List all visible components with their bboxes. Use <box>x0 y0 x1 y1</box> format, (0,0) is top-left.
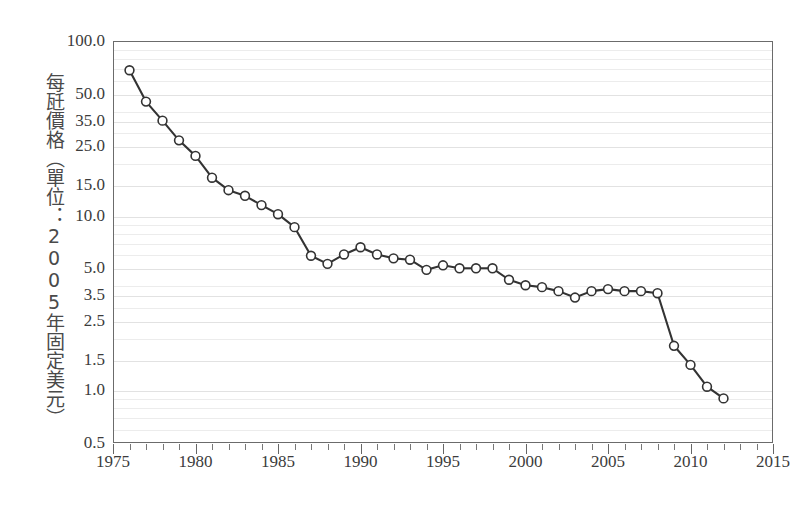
y-tick-label: 35.0 <box>33 111 105 131</box>
x-tick-minor <box>641 444 642 450</box>
x-tick-minor <box>575 444 576 450</box>
x-tick-minor <box>427 444 428 450</box>
gridline <box>114 322 772 323</box>
gridline <box>114 269 772 270</box>
x-tick-minor <box>295 444 296 450</box>
y-tick-label: 50.0 <box>33 84 105 104</box>
x-tick-minor <box>146 444 147 450</box>
gridline <box>114 361 772 362</box>
gridline <box>114 399 772 400</box>
x-tick-label: 1995 <box>413 452 473 472</box>
x-tick-minor <box>509 444 510 450</box>
gridline <box>114 50 772 51</box>
x-tick-minor <box>757 444 758 450</box>
x-tick-minor <box>707 444 708 450</box>
gridline <box>114 217 772 218</box>
gridline <box>114 255 772 256</box>
x-tick-minor <box>262 444 263 450</box>
gridline <box>114 391 772 392</box>
gridline <box>114 147 772 148</box>
x-tick-label: 1985 <box>248 452 308 472</box>
y-tick-label: 1.5 <box>33 350 105 370</box>
x-tick-minor <box>311 444 312 450</box>
x-tick-minor <box>212 444 213 450</box>
y-tick-label: 3.5 <box>33 285 105 305</box>
y-tick-label: 2.5 <box>33 311 105 331</box>
gridline <box>114 186 772 187</box>
gridline <box>114 81 772 82</box>
gridline <box>114 418 772 419</box>
gridline <box>114 164 772 165</box>
gridline <box>114 122 772 123</box>
gridline <box>114 296 772 297</box>
gridlines <box>114 42 772 442</box>
x-tick-minor <box>592 444 593 450</box>
y-tick-label: 100.0 <box>33 31 105 51</box>
x-tick-minor <box>724 444 725 450</box>
y-tick-label: 5.0 <box>33 258 105 278</box>
chart-figure: 每瓩價格（單位：2005年固定美元） 100.050.035.025.015.0… <box>0 0 810 512</box>
x-tick-label: 1990 <box>331 452 391 472</box>
gridline <box>114 244 772 245</box>
x-tick-minor <box>476 444 477 450</box>
gridline <box>114 286 772 287</box>
x-tick-minor <box>130 444 131 450</box>
y-tick-label: 15.0 <box>33 175 105 195</box>
x-tick-minor <box>245 444 246 450</box>
x-tick-minor <box>179 444 180 450</box>
gridline <box>114 69 772 70</box>
y-tick-label: 0.5 <box>33 433 105 453</box>
gridline <box>114 225 772 226</box>
x-tick-label: 1975 <box>83 452 143 472</box>
gridline <box>114 133 772 134</box>
x-tick-minor <box>740 444 741 450</box>
x-tick-minor <box>493 444 494 450</box>
x-tick-minor <box>229 444 230 450</box>
plot-area <box>113 41 773 443</box>
gridline <box>114 308 772 309</box>
x-tick-minor <box>163 444 164 450</box>
gridline <box>114 234 772 235</box>
x-tick-minor <box>328 444 329 450</box>
x-tick-minor <box>394 444 395 450</box>
gridline <box>114 408 772 409</box>
x-tick-minor <box>674 444 675 450</box>
gridline <box>114 339 772 340</box>
gridline <box>114 430 772 431</box>
gridline <box>114 95 772 96</box>
x-tick-minor <box>559 444 560 450</box>
x-tick-minor <box>344 444 345 450</box>
x-tick-label: 2010 <box>661 452 721 472</box>
x-tick-minor <box>625 444 626 450</box>
x-tick-label: 2015 <box>743 452 803 472</box>
x-tick-minor <box>460 444 461 450</box>
gridline <box>114 59 772 60</box>
x-tick-minor <box>410 444 411 450</box>
x-tick-label: 2005 <box>578 452 638 472</box>
x-tick-label: 2000 <box>496 452 556 472</box>
x-tick-minor <box>542 444 543 450</box>
y-tick-label: 25.0 <box>33 136 105 156</box>
x-tick-minor <box>377 444 378 450</box>
gridline <box>114 112 772 113</box>
y-tick-label: 1.0 <box>33 380 105 400</box>
x-tick-label: 1980 <box>166 452 226 472</box>
y-tick-label: 10.0 <box>33 206 105 226</box>
x-tick-minor <box>658 444 659 450</box>
